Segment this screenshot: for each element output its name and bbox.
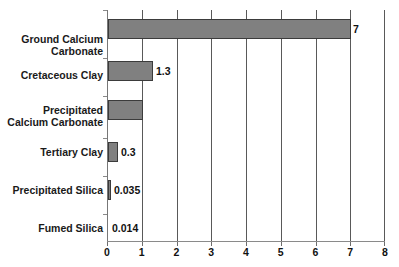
category-label: Fumed Silica: [0, 222, 103, 234]
grid-line-1: [142, 10, 143, 242]
y-tick-mark: [103, 214, 107, 215]
grid-line-6: [316, 10, 317, 242]
category-axis-labels: Ground Calcium Carbonate Cretaceous Clay…: [0, 10, 103, 242]
grid-line-7: [350, 10, 351, 242]
category-label: Precipitated Calcium Carbonate: [0, 104, 103, 128]
y-axis-line: [107, 10, 108, 242]
bar: [108, 19, 351, 39]
bar: [108, 180, 111, 200]
y-tick-mark: [103, 58, 107, 59]
category-label: Cretaceous Clay: [0, 69, 103, 81]
y-tick-mark: [103, 176, 107, 177]
y-tick-mark: [103, 96, 107, 97]
x-tick-label: 1: [139, 247, 145, 258]
x-tick-label: 8: [382, 247, 388, 258]
bar-value-label: 1.3: [156, 66, 171, 77]
x-tick-label: 5: [278, 247, 284, 258]
grid-line-5: [281, 10, 282, 242]
x-tick-label: 6: [313, 247, 319, 258]
bar: [108, 61, 153, 81]
x-tick-label: 4: [243, 247, 249, 258]
grid-line-8: [384, 10, 385, 242]
x-tick-label: 0: [104, 247, 110, 258]
bar-value-label: 0.014: [112, 223, 138, 234]
category-label: Precipitated Silica: [0, 184, 103, 196]
bar-value-label: 7: [353, 24, 359, 35]
y-tick-mark: [103, 10, 107, 11]
plot-area: 7 1.3 0.3 0.035 0.014: [107, 10, 385, 242]
grid-line-2: [177, 10, 178, 242]
bar-value-label: 0.3: [121, 147, 136, 158]
bar-chart: Ground Calcium Carbonate Cretaceous Clay…: [0, 0, 399, 267]
bar-value-label: 0.035: [114, 185, 140, 196]
x-tick-label: 3: [208, 247, 214, 258]
grid-line-3: [211, 10, 212, 242]
bar: [108, 142, 118, 162]
y-tick-mark: [103, 138, 107, 139]
bar: [108, 218, 110, 238]
x-tick-label: 2: [174, 247, 180, 258]
category-label: Ground Calcium Carbonate: [0, 33, 103, 57]
x-tick-label: 7: [347, 247, 353, 258]
bar: [108, 100, 143, 120]
category-label: Tertiary Clay: [0, 146, 103, 158]
grid-line-4: [246, 10, 247, 242]
